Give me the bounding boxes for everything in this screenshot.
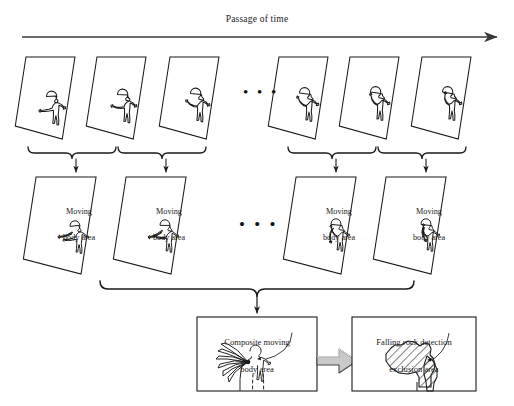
brace-group-3 [288, 147, 376, 172]
moving-body-area-label-2: Moving body area [138, 191, 200, 259]
composite-line1: Composite moving [199, 338, 315, 347]
moving-body-area-label-3: Moving body area [308, 191, 370, 259]
frame-5 [337, 57, 399, 139]
exclusion-line2: exclusion area [354, 365, 474, 374]
mba-line1: Moving [308, 208, 370, 217]
transform-block-arrow [317, 349, 357, 373]
composite-box-label: Composite moving body area [199, 320, 315, 392]
exclusion-box-label: Falling rock detection exclusion area [354, 320, 474, 392]
brace-group-4 [378, 147, 466, 172]
ellipsis-row1: • • • [243, 85, 279, 100]
moving-body-area-label-1: Moving body area [48, 191, 110, 259]
frame-6 [409, 57, 471, 139]
brace-group-2 [118, 147, 206, 172]
brace-group-1 [28, 147, 116, 172]
mba-line1: Moving [48, 208, 110, 217]
frame-1 [13, 57, 75, 139]
frame-3 [157, 57, 219, 139]
exclusion-line1: Falling rock detection [354, 338, 474, 347]
page-title: Passage of time [194, 15, 320, 25]
mba-line1: Moving [138, 208, 200, 217]
composite-line2: body area [199, 365, 315, 374]
frame-2 [84, 57, 146, 139]
ellipsis-row2: • • • [239, 216, 278, 233]
mba-line2: body area [398, 234, 460, 243]
figure-canvas: Passage of time • • • • • • Moving body … [0, 0, 514, 406]
mba-line2: body area [138, 234, 200, 243]
big-brace [100, 281, 414, 313]
mba-line1: Moving [398, 208, 460, 217]
moving-body-area-label-4: Moving body area [398, 191, 460, 259]
mba-line2: body area [308, 234, 370, 243]
mba-line2: body area [48, 234, 110, 243]
